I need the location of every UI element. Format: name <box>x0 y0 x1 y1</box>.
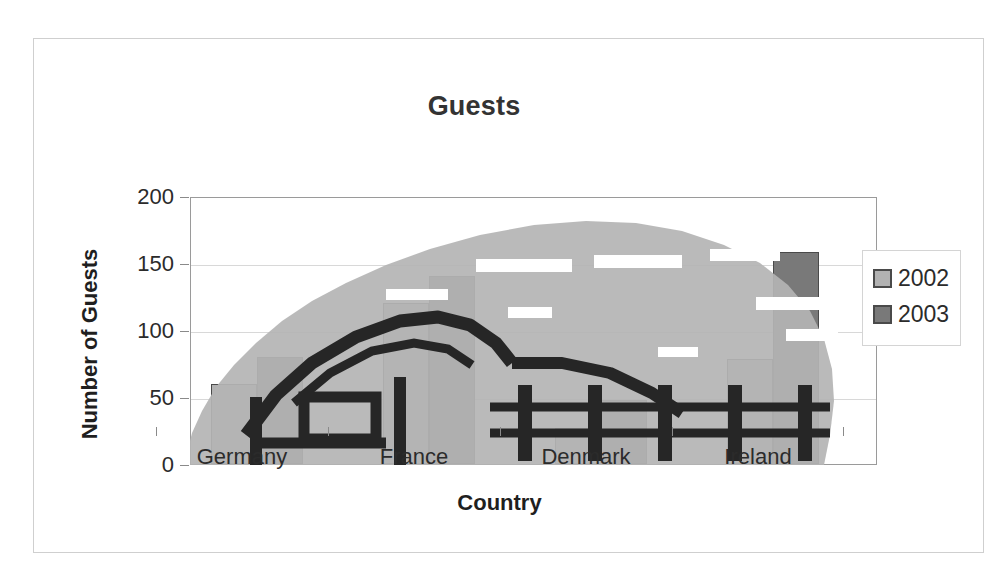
x-tick-mark-1 <box>328 427 329 436</box>
x-category-label-germany: Germany <box>197 444 287 470</box>
chart-frame: Guests Number of Guests 200 150 100 50 0 <box>33 38 984 553</box>
y-tick-label-0: 0 <box>108 452 174 478</box>
bar-france-2002 <box>383 303 429 464</box>
plot-area <box>190 197 877 465</box>
x-tick-mark-2 <box>500 427 501 436</box>
bar-ireland-2003 <box>773 252 819 464</box>
x-category-label-denmark: Denmark <box>541 444 630 470</box>
y-tick-label-100: 100 <box>108 318 174 344</box>
x-axis-title: Country <box>156 490 843 516</box>
y-tick-mark-100 <box>180 331 189 332</box>
y-tick-mark-150 <box>180 264 189 265</box>
y-tick-label-50: 50 <box>108 385 174 411</box>
legend-swatch-2003 <box>873 305 892 324</box>
y-axis-title: Number of Guests <box>77 224 103 464</box>
y-tick-mark-50 <box>180 398 189 399</box>
legend-label-2003: 2003 <box>898 303 949 326</box>
x-tick-mark-4 <box>843 427 844 436</box>
legend-swatch-2002 <box>873 269 892 288</box>
x-category-label-france: France <box>380 444 448 470</box>
chart-legend: 2002 2003 <box>862 250 961 346</box>
y-tick-mark-200 <box>180 197 189 198</box>
y-tick-label-150: 150 <box>108 251 174 277</box>
legend-item-2003: 2003 <box>873 296 960 332</box>
x-category-label-ireland: Ireland <box>724 444 791 470</box>
x-tick-mark-3 <box>672 427 673 436</box>
legend-label-2002: 2002 <box>898 267 949 290</box>
legend-item-2002: 2002 <box>873 260 960 296</box>
y-tick-mark-0 <box>180 465 189 466</box>
x-tick-mark-0 <box>156 427 157 436</box>
bar-france-2003 <box>429 276 475 464</box>
y-tick-label-200: 200 <box>108 184 174 210</box>
